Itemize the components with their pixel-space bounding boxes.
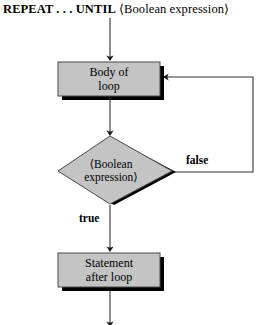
flowchart-graphics (0, 0, 268, 325)
edge-label-true: true (79, 212, 99, 224)
node-statement-after-loop (58, 253, 160, 287)
flowchart-canvas: REPEAT . . . UNTIL ⟨Boolean expression⟩ (0, 0, 268, 325)
edge-false-loop-back (166, 77, 253, 172)
node-condition (58, 136, 172, 204)
node-body-of-loop (58, 62, 160, 96)
edge-label-false: false (186, 154, 208, 166)
